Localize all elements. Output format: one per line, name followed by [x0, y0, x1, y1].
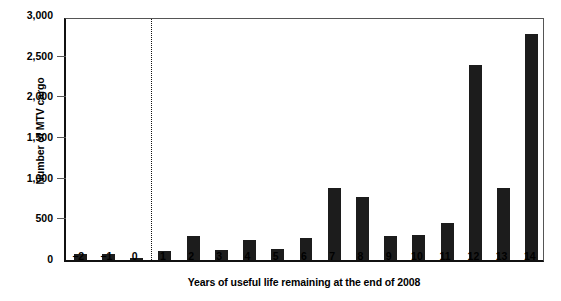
y-tick-5: 2,500 [57, 56, 66, 57]
bar [525, 34, 538, 260]
y-tick-label: 1,000 [27, 172, 53, 185]
x-tick-label: 11 [431, 250, 459, 262]
x-tick-label: 5 [262, 250, 290, 262]
x-tick-label: 8 [346, 250, 374, 262]
x-tick-label: −1 [92, 250, 120, 262]
x-tick-label: 6 [290, 250, 318, 262]
x-tick-label: 9 [375, 250, 403, 262]
bar [469, 65, 482, 260]
y-tick-label: 500 [35, 212, 53, 225]
y-tick-label: 1,500 [27, 131, 53, 144]
zero-divider-line [151, 19, 152, 260]
y-tick-2: 1,000 [57, 178, 66, 179]
y-tick-label: 2,500 [27, 50, 53, 63]
y-tick-4: 2,000 [57, 96, 66, 97]
y-tick-3: 1,500 [57, 137, 66, 138]
x-tick-label: 13 [488, 250, 516, 262]
x-tick-label: 4 [233, 250, 261, 262]
x-tick-label: 0 [120, 250, 148, 262]
x-tick-label: 1 [149, 250, 177, 262]
x-tick-label: 12 [459, 250, 487, 262]
bar-chart-figure: Number of MTV cargo 05001,0001,5002,0002… [0, 0, 561, 301]
x-tick-label: −2 [64, 250, 92, 262]
x-tick-label: 14 [516, 250, 544, 262]
x-tick-label: 3 [205, 250, 233, 262]
x-tick-label: 7 [318, 250, 346, 262]
y-tick-label: 2,000 [27, 90, 53, 103]
plot-area: 05001,0001,5002,0002,5003,000 [64, 18, 544, 262]
y-tick-label: 0 [47, 253, 53, 266]
x-tick-label: 2 [177, 250, 205, 262]
y-tick-label: 3,000 [27, 9, 53, 22]
x-tick-label: 10 [403, 250, 431, 262]
y-tick-1: 500 [57, 218, 66, 219]
x-axis-title: Years of useful life remaining at the en… [64, 276, 544, 288]
